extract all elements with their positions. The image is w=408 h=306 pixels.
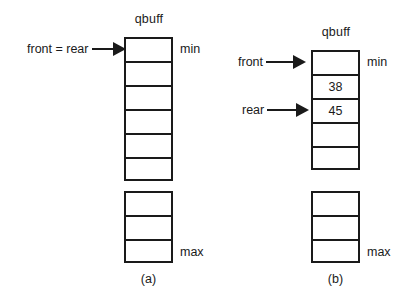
array-cell xyxy=(126,37,171,61)
min-label-a: min xyxy=(180,42,200,56)
array-title-a: qbuff xyxy=(124,12,174,26)
panel-a: qbuff xyxy=(0,0,204,306)
array-upper-group-a xyxy=(124,37,173,181)
array-cell xyxy=(126,191,171,215)
arrowhead-icon xyxy=(296,103,309,117)
array-cell xyxy=(126,215,171,239)
array-cell xyxy=(313,191,358,215)
panel-b: qbuff 38 45 xyxy=(204,0,408,306)
max-label-b: max xyxy=(367,245,391,259)
caption-b: (b) xyxy=(311,272,360,286)
queue-buffer-diagram: qbuff xyxy=(0,0,408,306)
array-cell xyxy=(313,215,358,239)
array-cell xyxy=(313,239,358,263)
pointer-shaft xyxy=(92,48,114,51)
max-label-a: max xyxy=(180,245,204,259)
array-cell xyxy=(313,50,358,74)
pointer-label: front = rear xyxy=(27,43,89,56)
array-cell xyxy=(126,239,171,263)
array-cell xyxy=(126,61,171,85)
pointer-rear-b: rear xyxy=(242,101,309,119)
array-cell xyxy=(126,133,171,157)
arrowhead-icon xyxy=(113,42,126,56)
pointer-label: front xyxy=(238,56,263,69)
array-lower-group-a xyxy=(124,191,173,263)
arrowhead-icon xyxy=(293,55,306,69)
array-cell xyxy=(126,85,171,109)
caption-a: (a) xyxy=(124,272,173,286)
array-cell xyxy=(313,146,358,170)
array-upper-group-b: 38 45 xyxy=(311,50,360,170)
array-cell xyxy=(126,109,171,133)
pointer-front-b: front xyxy=(238,53,306,71)
array-cell: 45 xyxy=(313,98,358,122)
cell-value: 45 xyxy=(313,105,358,118)
array-cell: 38 xyxy=(313,74,358,98)
cell-value: 38 xyxy=(313,81,358,94)
array-title-b: qbuff xyxy=(311,25,361,39)
min-label-b: min xyxy=(367,55,387,69)
array-lower-group-b xyxy=(311,191,360,263)
pointer-shaft xyxy=(267,109,297,112)
array-cell xyxy=(313,122,358,146)
array-cell xyxy=(126,157,171,181)
pointer-shaft xyxy=(266,61,294,64)
pointer-front-rear-a: front = rear xyxy=(27,40,126,58)
pointer-label: rear xyxy=(242,104,264,117)
